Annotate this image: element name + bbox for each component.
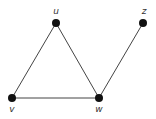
node-z <box>139 19 147 27</box>
edges <box>12 23 143 98</box>
label-v: v <box>9 104 15 114</box>
graph-diagram: u z v w <box>0 0 156 119</box>
label-z: z <box>141 6 147 16</box>
node-w <box>95 94 103 102</box>
edge-u-w <box>56 23 99 98</box>
edge-w-z <box>99 23 143 98</box>
node-u <box>52 19 60 27</box>
node-v <box>8 94 16 102</box>
edge-u-v <box>12 23 56 98</box>
label-u: u <box>53 6 59 16</box>
label-w: w <box>95 104 103 114</box>
